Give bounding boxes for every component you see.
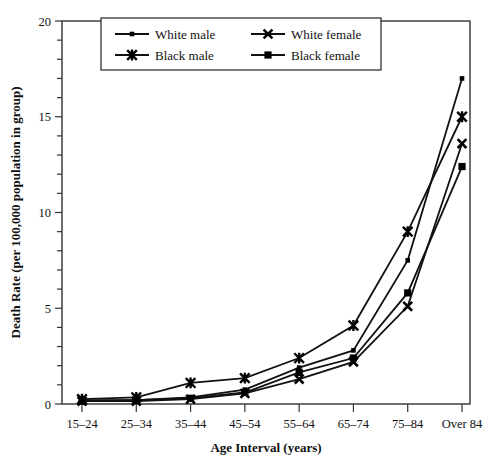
marker-square-large-3-0 (78, 398, 85, 405)
series-line (82, 167, 462, 402)
marker-x-1-6 (403, 302, 412, 311)
y-axis-tick-label: 0 (45, 398, 51, 412)
marker-square-small-0-7 (460, 76, 465, 81)
chart-figure: 0510152015–2425–3435–4445–5455–6465–7475… (0, 0, 491, 456)
marker-square-large-3-5 (350, 354, 357, 361)
marker-x-1-7 (458, 139, 467, 148)
marker-square-large-3-6 (404, 289, 411, 296)
chart-legend: White maleWhite femaleBlack maleBlack fe… (101, 18, 381, 70)
legend-label: White female (291, 27, 362, 42)
marker-star-2-5 (349, 320, 359, 331)
legend-label: Black male (155, 48, 214, 63)
marker-square-large-legend-3 (264, 51, 271, 58)
marker-square-large-3-3 (241, 389, 248, 396)
x-axis-title: Age Interval (years) (210, 440, 321, 455)
marker-star-2-6 (403, 226, 413, 237)
marker-square-small-0-5 (351, 348, 356, 353)
series-line (82, 144, 462, 402)
series-line (82, 78, 462, 400)
marker-star-2-4 (294, 353, 304, 364)
x-axis-tick-label: 55–64 (284, 417, 316, 431)
x-axis-tick-label: 65–74 (338, 417, 370, 431)
marker-square-small-legend-0 (130, 32, 135, 37)
x-axis-tick-label: 25–34 (121, 417, 153, 431)
series-line (82, 117, 462, 399)
x-axis-tick-label: 45–54 (229, 417, 261, 431)
marker-square-large-3-2 (187, 395, 194, 402)
series-white-female (78, 139, 467, 405)
x-axis-tick-label: 15–24 (66, 417, 98, 431)
plot-frame (62, 21, 470, 404)
legend-label: Black female (291, 48, 360, 63)
marker-square-large-3-4 (296, 369, 303, 376)
x-axis-tick-label: 35–44 (175, 417, 207, 431)
x-axis-tick-label: 75–84 (392, 417, 424, 431)
marker-square-small-0-6 (405, 258, 410, 263)
marker-square-large-3-7 (458, 163, 465, 170)
series-white-male (80, 76, 465, 402)
marker-square-large-3-1 (133, 397, 140, 404)
y-axis-tick-label: 15 (39, 110, 52, 124)
marker-star-2-7 (457, 111, 467, 122)
y-axis-tick-label: 5 (45, 302, 51, 316)
x-axis-tick-label: Over 84 (442, 417, 483, 431)
legend-label: White male (155, 27, 216, 42)
death-rate-line-chart: 0510152015–2425–3435–4445–5455–6465–7475… (0, 0, 491, 456)
y-axis-title: Death Rate (per 100,000 population in gr… (8, 87, 23, 339)
y-axis-tick-label: 20 (39, 15, 52, 29)
y-axis-tick-label: 10 (39, 206, 52, 220)
